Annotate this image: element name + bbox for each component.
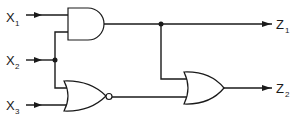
input-label-x2: X 2 — [6, 53, 20, 71]
svg-text:Z: Z — [276, 81, 284, 96]
arrow-icon — [34, 57, 42, 63]
arrow-icon — [262, 21, 271, 27]
or-gate — [184, 72, 224, 104]
wire-z1 — [104, 21, 272, 79]
svg-text:1: 1 — [15, 19, 20, 28]
and-gate — [68, 8, 104, 40]
output-label-z1: Z 1 — [276, 17, 290, 35]
svg-text:2: 2 — [285, 90, 290, 99]
arrow-icon — [34, 12, 42, 18]
arrow-icon — [262, 85, 271, 91]
svg-text:1: 1 — [285, 26, 290, 35]
wire-x2 — [26, 32, 68, 88]
wire-x1 — [26, 12, 68, 18]
input-label-x3: X 3 — [6, 98, 20, 114]
arrow-icon — [34, 102, 42, 108]
output-label-z2: Z 2 — [276, 81, 290, 99]
svg-text:Z: Z — [276, 17, 284, 32]
svg-text:2: 2 — [15, 62, 20, 71]
input-label-x1: X 1 — [6, 10, 20, 28]
logic-circuit-diagram: X 1 X 2 X 3 — [0, 0, 302, 114]
junction-dot — [53, 58, 58, 63]
wire-z2 — [224, 85, 272, 91]
svg-text:X: X — [6, 53, 15, 68]
svg-text:X: X — [6, 10, 15, 25]
nor-gate — [64, 81, 112, 111]
wire-x3 — [26, 102, 70, 108]
inverter-bubble — [106, 94, 112, 100]
svg-text:3: 3 — [15, 107, 20, 114]
svg-text:X: X — [6, 98, 15, 113]
